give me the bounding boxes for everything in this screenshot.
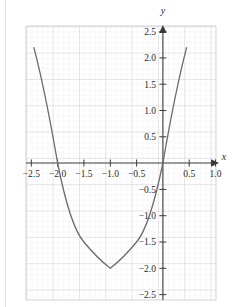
y-tick-label: 1.5 [144,80,156,90]
y-tick-label: 2.5 [144,27,156,37]
x-tick-label: −1.5 [75,169,92,179]
parabola-graph-figure: −2.5 −2.0 −1.5 −1.0 −0.5 0.5 1.0 2.5 2.0… [0,0,232,307]
y-tick-label: −2.0 [139,264,156,274]
y-tick-label: 1.0 [144,106,156,116]
x-tick-label: 0.5 [183,169,195,179]
y-axis-label: y [160,5,166,16]
y-tick-label: −1.0 [139,211,156,221]
x-axis-label: x [221,151,227,162]
y-tick-label: −0.5 [139,185,156,195]
x-tick-label: −1.0 [102,169,119,179]
y-tick-label: 0.5 [144,132,156,142]
y-tick-label: −2.5 [139,290,156,300]
x-tick-label: −2.0 [49,169,66,179]
x-tick-label: −2.5 [23,169,40,179]
y-tick-label: 2.0 [144,53,156,63]
x-tick-label: 1.0 [210,169,222,179]
graph-svg: −2.5 −2.0 −1.5 −1.0 −0.5 0.5 1.0 2.5 2.0… [0,0,232,307]
y-tick-label: −1.5 [139,237,156,247]
x-tick-label: −0.5 [128,169,145,179]
